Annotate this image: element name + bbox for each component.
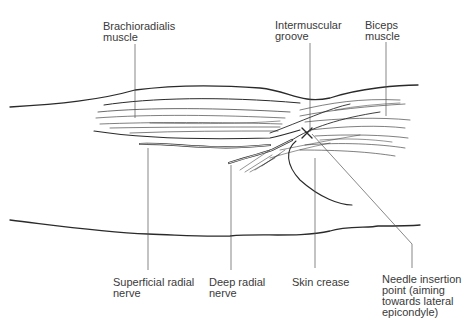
- label-biceps-muscle: Biceps muscle: [365, 20, 400, 42]
- arm-lower-outline: [10, 220, 420, 236]
- label-deep-radial-nerve: Deep radial nerve: [209, 277, 265, 299]
- arm-upper-outline: [10, 85, 418, 107]
- leader-needle-insertion: [312, 134, 412, 268]
- label-needle-insertion-point: Needle insertion point (aiming towards l…: [382, 274, 462, 318]
- label-intermuscular-groove: Intermuscular groove: [275, 20, 342, 42]
- skin-crease-curve: [289, 141, 352, 205]
- radial-nerve-block-diagram: Brachioradialis muscle Intermuscular gro…: [0, 0, 468, 329]
- label-skin-crease: Skin crease: [292, 277, 349, 288]
- label-brachioradialis-muscle: Brachioradialis muscle: [103, 21, 175, 43]
- label-superficial-radial-nerve: Superficial radial nerve: [113, 277, 194, 299]
